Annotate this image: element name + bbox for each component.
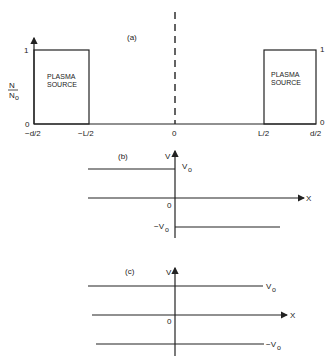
panel-a: (a) PLASMA SOURCE PLASMA SOURCE 1 0 N N …: [8, 12, 325, 138]
right-source-line1: PLASMA: [271, 71, 300, 78]
panel-b-label: (b): [118, 152, 128, 161]
figure: (a) PLASMA SOURCE PLASMA SOURCE 1 0 N N …: [0, 0, 336, 361]
panel-c-label: (c): [125, 267, 135, 276]
left-source-line2: SOURCE: [47, 81, 77, 88]
left-source-line1: PLASMA: [47, 73, 76, 80]
upper-value-sub: o: [272, 286, 276, 293]
v-axis-label: V: [165, 152, 171, 161]
upper-value-sub: o: [188, 166, 192, 173]
panel-a-label: (a): [127, 33, 137, 42]
y-label-num: N: [9, 81, 15, 90]
origin-label: 0: [167, 317, 172, 326]
x-tick-d2: d/2: [310, 129, 322, 138]
right-plasma-source-box: [264, 50, 316, 124]
x-tick-neg-d2: −d/2: [25, 129, 41, 138]
lower-value: −V: [266, 340, 277, 349]
x-axis-label: X: [306, 194, 312, 203]
y-tick-0: 0: [25, 120, 30, 129]
x-tick-l2: L/2: [258, 129, 270, 138]
x-tick-neg-l2: −L/2: [78, 129, 94, 138]
right-tick-1: 1: [320, 45, 325, 54]
y-tick-1: 1: [24, 46, 29, 55]
x-tick-zero: 0: [172, 129, 177, 138]
panel-c: (c) V X 0 V o −V o: [88, 267, 296, 356]
v-axis-label: V: [166, 268, 172, 277]
right-tick-0: 0: [320, 118, 325, 127]
lower-value-sub: o: [165, 226, 169, 233]
panel-b: (b) V X 0 V o −V o: [88, 151, 312, 238]
right-source-line2: SOURCE: [271, 79, 301, 86]
lower-value-sub: o: [277, 344, 281, 351]
lower-value: −V: [154, 222, 165, 231]
y-label-den-sub: o: [15, 94, 19, 101]
origin-label: 0: [167, 201, 172, 210]
x-axis-label: X: [290, 311, 296, 320]
